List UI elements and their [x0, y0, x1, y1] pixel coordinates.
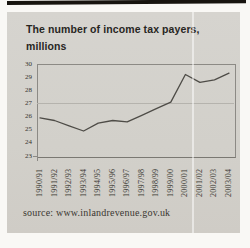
x-axis-tick-label: 1990/91	[35, 160, 45, 197]
x-axis-tick-label: 1997/98	[137, 160, 147, 197]
y-axis-tick-label: 29	[7, 73, 32, 81]
x-axis-tick-label: 2001/02	[195, 160, 205, 197]
y-axis-tick-label: 25	[7, 125, 32, 133]
x-axis-tick-label: 1996/97	[122, 160, 132, 197]
y-axis-tick-label: 28	[7, 86, 32, 94]
top-rule	[7, 0, 246, 5]
y-axis-tick-label: 27	[7, 99, 32, 107]
source-note: source: www.inlandrevenue.gov.uk	[23, 207, 170, 218]
chart-panel: The number of income tax payers, million…	[7, 12, 240, 233]
scan-crease-artifact	[192, 12, 194, 233]
x-axis-tick-label: 2000/01	[180, 160, 190, 197]
y-axis-tick-label: 30	[7, 60, 32, 68]
chart-title-line-2: millions	[26, 38, 200, 55]
x-axis-tick-label: 1991/92	[50, 160, 60, 197]
x-axis-tick-label: 1994/95	[93, 160, 103, 197]
y-axis-tick-label: 26	[7, 112, 32, 120]
x-axis-tick-label: 2003/04	[224, 160, 234, 197]
x-axis-corner-tick	[37, 157, 38, 161]
scanned-page: The number of income tax payers, million…	[0, 0, 250, 248]
x-axis-tick-label: 1993/94	[79, 160, 89, 197]
gridline-27	[37, 103, 234, 104]
x-axis-tick-label: 1999/00	[166, 160, 176, 197]
x-axis-tick-label: 1992/93	[64, 160, 74, 197]
plot-area	[37, 64, 236, 158]
x-axis-tick-label: 1998/99	[151, 160, 161, 197]
chart-title-line-1: The number of income tax payers,	[26, 21, 200, 38]
y-axis-tick-label: 23	[7, 152, 32, 160]
x-axis-tick-label: 2002/03	[209, 160, 219, 197]
x-axis-tick-label: 1995/96	[108, 160, 118, 197]
y-axis-tick-label: 24	[7, 138, 32, 146]
chart-title: The number of income tax payers, million…	[26, 21, 200, 55]
